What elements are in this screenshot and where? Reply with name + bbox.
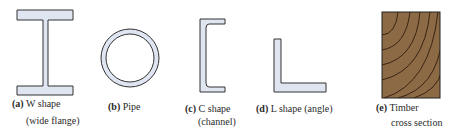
w-shape-section xyxy=(17,10,73,95)
caption-label: W shape xyxy=(26,98,61,109)
c-shape-section xyxy=(200,19,225,92)
caption-label: C shape xyxy=(199,103,231,114)
caption-timber-sub: cross section xyxy=(391,117,442,129)
caption-tag: (c) xyxy=(185,103,196,114)
caption-timber: (e) Timber xyxy=(376,102,419,114)
caption-sub: (wide flange) xyxy=(26,115,80,126)
caption-sub: (channel) xyxy=(198,116,236,127)
caption-w-shape: (a) W shape xyxy=(12,98,61,110)
caption-l-shape: (d) L shape (angle) xyxy=(256,103,333,115)
caption-c-shape-sub: (channel) xyxy=(198,116,236,128)
caption-label: L shape (angle) xyxy=(271,103,333,114)
caption-label: Pipe xyxy=(123,101,141,112)
caption-c-shape: (c) C shape xyxy=(185,103,231,115)
caption-tag: (d) xyxy=(256,103,268,114)
caption-tag: (e) xyxy=(376,102,387,113)
caption-pipe: (b) Pipe xyxy=(108,101,141,113)
caption-sub: cross section xyxy=(391,117,442,128)
l-shape-section xyxy=(274,39,326,92)
timber-section xyxy=(382,12,442,98)
caption-w-shape-sub: (wide flange) xyxy=(26,115,80,127)
pipe-section xyxy=(101,29,159,87)
caption-tag: (a) xyxy=(12,98,24,109)
caption-label: Timber xyxy=(389,102,418,113)
caption-tag: (b) xyxy=(108,101,120,112)
